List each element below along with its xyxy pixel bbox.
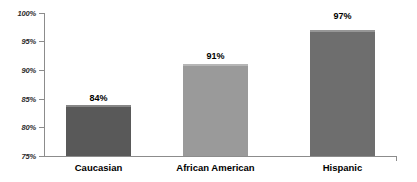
- bar-value-label-hispanic: 97%: [310, 11, 375, 21]
- y-axis-label-95: 95%: [2, 37, 36, 46]
- y-tick-mark-75: [39, 156, 44, 157]
- bar-top-highlight: [310, 30, 375, 32]
- y-axis-label-100: 100%: [2, 9, 36, 18]
- y-tick-mark-90: [39, 70, 44, 71]
- y-axis-line: [44, 13, 45, 157]
- bar-caucasian[interactable]: [66, 105, 131, 156]
- y-tick-mark-80: [39, 127, 44, 128]
- bar-top-highlight: [183, 64, 248, 66]
- bar-hispanic[interactable]: [310, 30, 375, 156]
- bar-chart: 100% 95% 90% 85% 80% 75% 84% 91% 97% Cau…: [0, 0, 417, 182]
- y-axis-label-85: 85%: [2, 95, 36, 104]
- y-tick-mark-95: [39, 41, 44, 42]
- bar-value-label-caucasian: 84%: [66, 93, 131, 103]
- y-axis-label-90: 90%: [2, 66, 36, 75]
- y-axis-label-75: 75%: [2, 152, 36, 161]
- x-axis-line: [44, 156, 397, 157]
- category-label-hispanic: Hispanic: [290, 162, 395, 173]
- category-label-african-american: African American: [163, 162, 268, 173]
- bar-african-american[interactable]: [183, 64, 248, 156]
- bar-value-label-african-american: 91%: [183, 51, 248, 61]
- y-tick-mark-100: [39, 13, 44, 14]
- x-axis-end-tick: [396, 156, 397, 161]
- category-label-caucasian: Caucasian: [46, 162, 151, 173]
- y-tick-mark-85: [39, 99, 44, 100]
- bar-top-highlight: [66, 105, 131, 107]
- y-axis-label-80: 80%: [2, 123, 36, 132]
